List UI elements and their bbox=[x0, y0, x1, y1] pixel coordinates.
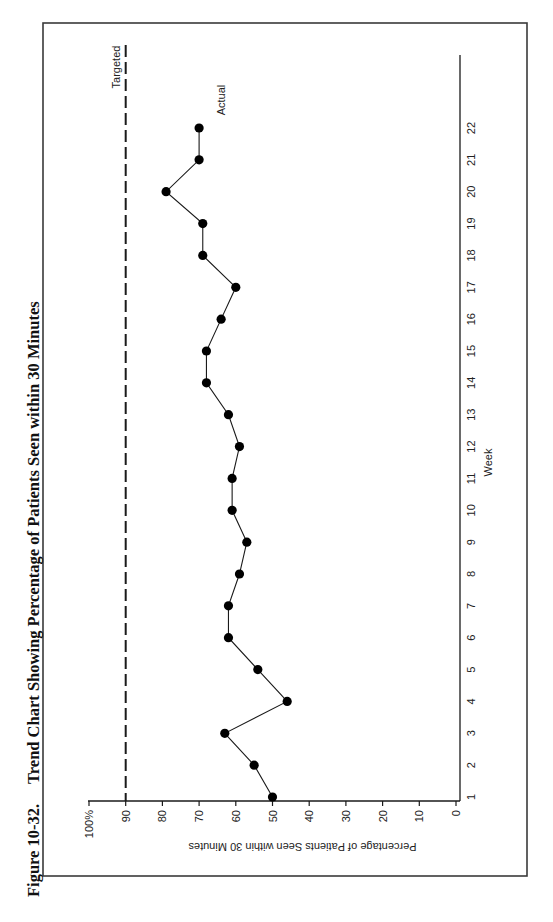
week-axis-labels: 12345678910111213141516171819202122 bbox=[465, 122, 477, 800]
actual-point bbox=[195, 123, 204, 132]
value-tick-label: 70 bbox=[193, 810, 205, 822]
actual-point bbox=[235, 569, 244, 578]
figure-title: Trend Chart Showing Percentage of Patien… bbox=[24, 301, 43, 784]
week-tick-label: 16 bbox=[465, 313, 477, 325]
actual-point bbox=[242, 538, 251, 547]
actual-point bbox=[224, 601, 233, 610]
week-axis-title: Week bbox=[482, 448, 494, 476]
value-tick-label: 90 bbox=[120, 810, 132, 822]
figure: Figure 10-32. Trend Chart Showing Percen… bbox=[0, 0, 553, 922]
actual-label: Actual bbox=[215, 85, 227, 116]
actual-point bbox=[224, 633, 233, 642]
week-tick-label: 6 bbox=[465, 635, 477, 641]
value-tick-label: 100% bbox=[83, 810, 95, 838]
value-axis-ticks: 0102030405060708090100% bbox=[83, 801, 462, 838]
actual-point bbox=[202, 346, 211, 355]
actual-point bbox=[228, 474, 237, 483]
week-tick-label: 20 bbox=[465, 186, 477, 198]
value-tick-label: 40 bbox=[303, 810, 315, 822]
actual-series: Actual bbox=[161, 85, 291, 802]
actual-point bbox=[195, 155, 204, 164]
value-tick-label: 20 bbox=[377, 810, 389, 822]
actual-point bbox=[253, 665, 262, 674]
actual-point bbox=[161, 187, 170, 196]
actual-markers bbox=[161, 123, 291, 801]
actual-point bbox=[224, 410, 233, 419]
value-tick-label: 10 bbox=[413, 810, 425, 822]
actual-point bbox=[228, 506, 237, 515]
week-tick-label: 4 bbox=[465, 698, 477, 704]
week-tick-label: 11 bbox=[465, 473, 477, 484]
trend-chart: Figure 10-32. Trend Chart Showing Percen… bbox=[0, 0, 553, 922]
week-tick-label: 21 bbox=[465, 154, 477, 166]
week-tick-label: 12 bbox=[465, 440, 477, 452]
week-tick-label: 2 bbox=[465, 762, 477, 768]
figure-number: Figure 10-32. bbox=[24, 804, 43, 897]
week-tick-label: 18 bbox=[465, 249, 477, 261]
actual-point bbox=[231, 283, 240, 292]
week-tick-label: 19 bbox=[465, 217, 477, 229]
week-tick-label: 22 bbox=[465, 122, 477, 134]
targeted-label: Targeted bbox=[110, 46, 122, 89]
week-tick-label: 14 bbox=[465, 377, 477, 389]
actual-point bbox=[220, 729, 229, 738]
targeted-series: Targeted bbox=[110, 45, 126, 801]
week-tick-label: 3 bbox=[465, 730, 477, 736]
week-tick-label: 8 bbox=[465, 571, 477, 577]
value-tick-label: 60 bbox=[230, 810, 242, 822]
actual-point bbox=[235, 442, 244, 451]
figure-caption: Figure 10-32. Trend Chart Showing Percen… bbox=[24, 301, 43, 897]
week-tick-label: 17 bbox=[465, 281, 477, 293]
value-tick-label: 30 bbox=[340, 810, 352, 822]
axes: 0102030405060708090100% 1234567891011121… bbox=[83, 55, 494, 853]
actual-point bbox=[283, 697, 292, 706]
week-tick-label: 9 bbox=[465, 539, 477, 545]
actual-point bbox=[217, 315, 226, 324]
week-tick-label: 10 bbox=[465, 504, 477, 516]
value-tick-label: 0 bbox=[450, 810, 462, 816]
week-tick-label: 15 bbox=[465, 345, 477, 357]
week-tick-label: 7 bbox=[465, 603, 477, 609]
week-tick-label: 1 bbox=[465, 794, 477, 800]
value-tick-label: 80 bbox=[156, 810, 168, 822]
actual-point bbox=[198, 219, 207, 228]
figure-border bbox=[43, 23, 527, 876]
actual-point bbox=[198, 251, 207, 260]
actual-point bbox=[202, 378, 211, 387]
actual-line bbox=[166, 128, 287, 797]
week-tick-label: 13 bbox=[465, 409, 477, 421]
value-axis-title: Percentage of Patients Seen within 30 Mi… bbox=[188, 841, 417, 853]
actual-point bbox=[268, 792, 277, 801]
week-tick-label: 5 bbox=[465, 667, 477, 673]
value-tick-label: 50 bbox=[267, 810, 279, 822]
actual-point bbox=[250, 761, 259, 770]
